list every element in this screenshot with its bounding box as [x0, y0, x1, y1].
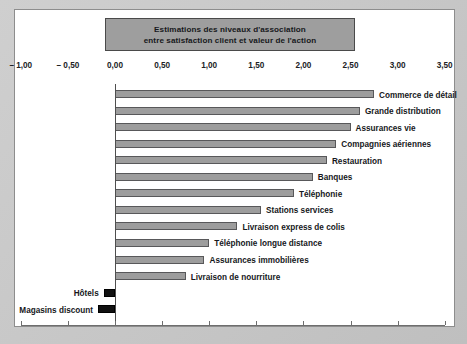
bar — [115, 140, 336, 148]
x-tick-label-4: 1,00 — [201, 61, 217, 70]
bar-label: Stations services — [266, 206, 333, 215]
x-tick-label-6: 2,00 — [295, 61, 311, 70]
baseline-tick-7 — [351, 321, 352, 325]
bar-label: Hôtels — [74, 289, 99, 298]
baseline-tick-8 — [398, 321, 399, 325]
bar-label: Téléphonie longue distance — [214, 239, 322, 248]
x-tick-label-2: 0,00 — [107, 61, 123, 70]
baseline-tick-1 — [68, 321, 69, 325]
baseline-tick-3 — [162, 321, 163, 325]
x-tick-label-1: – 0,50 — [57, 61, 80, 70]
plot-area: – 1,00– 0,500,000,501,001,502,002,503,00… — [15, 10, 454, 326]
bar-label: Restauration — [332, 157, 382, 166]
x-tick-label-0: – 1,00 — [9, 61, 32, 70]
baseline-tick-6 — [303, 321, 304, 325]
bar — [115, 256, 204, 264]
bar-label: Banques — [318, 173, 353, 182]
bar-label: Commerce de détail — [379, 91, 457, 100]
bar-label: Assurances vie — [356, 124, 416, 133]
bar-label: Compagnies aériennes — [341, 140, 431, 149]
bar — [115, 123, 351, 131]
bar — [115, 222, 237, 230]
bar — [115, 90, 374, 98]
bar — [98, 305, 115, 313]
x-axis-baseline — [21, 325, 445, 326]
bar — [115, 206, 261, 214]
zero-axis-line — [115, 84, 116, 325]
baseline-tick-2 — [115, 321, 116, 325]
bar — [104, 289, 115, 297]
baseline-tick-5 — [256, 321, 257, 325]
baseline-tick-9 — [445, 321, 446, 325]
bar — [115, 156, 327, 164]
bar — [115, 272, 186, 280]
x-tick-label-8: 3,00 — [390, 61, 406, 70]
bar-label: Magasins discount — [19, 306, 93, 315]
bar-label: Livraison express de colis — [242, 223, 344, 232]
window-frame: Estimations des niveaux d'association en… — [0, 0, 467, 344]
baseline-tick-4 — [209, 321, 210, 325]
bar-label: Livraison de nourriture — [191, 273, 281, 282]
x-tick-label-3: 0,50 — [154, 61, 170, 70]
bar — [115, 189, 294, 197]
bar — [115, 173, 313, 181]
x-tick-label-9: 3,50 — [437, 61, 453, 70]
x-tick-label-5: 1,50 — [248, 61, 264, 70]
chart-panel: Estimations des niveaux d'association en… — [14, 9, 455, 327]
baseline-tick-0 — [21, 321, 22, 325]
bar-label: Grande distribution — [365, 107, 441, 116]
bar — [115, 107, 360, 115]
bar-label: Téléphonie — [299, 190, 342, 199]
bar — [115, 239, 209, 247]
x-tick-label-7: 2,50 — [343, 61, 359, 70]
bar-label: Assurances immobilières — [209, 256, 308, 265]
